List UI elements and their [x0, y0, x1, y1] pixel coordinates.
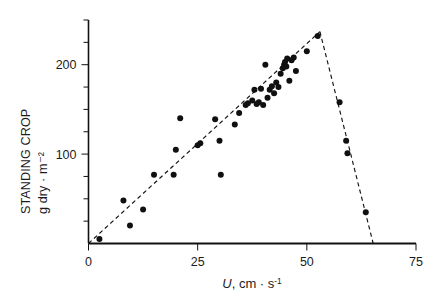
data-point: [293, 68, 299, 74]
data-point: [304, 48, 310, 54]
data-point: [127, 223, 133, 229]
data-point: [262, 62, 268, 68]
data-point: [232, 122, 238, 128]
x-tick-label-0: 0: [85, 255, 92, 269]
data-point: [197, 140, 203, 146]
data-point: [251, 87, 257, 93]
x-tick-label-75: 75: [409, 255, 423, 269]
data-point: [217, 138, 223, 144]
data-point: [291, 55, 297, 61]
data-point: [278, 71, 284, 77]
data-point: [120, 198, 126, 204]
x-axis-title: U, cm · s-1: [222, 276, 282, 291]
data-point: [363, 209, 369, 215]
data-point: [260, 102, 266, 108]
data-point: [177, 115, 183, 121]
y-axis-title-line1: STANDING CROP: [19, 109, 33, 214]
data-point: [344, 150, 350, 156]
data-point: [171, 172, 177, 178]
y-axis-title: STANDING CROP g dry · m⁻²: [2, 28, 66, 218]
data-point: [218, 172, 224, 178]
data-point: [271, 90, 277, 96]
y-axis-ticks: [82, 20, 89, 221]
data-point: [265, 95, 271, 101]
data-point: [236, 110, 242, 116]
data-point: [315, 33, 321, 39]
data-point: [96, 236, 102, 242]
data-point: [343, 138, 349, 144]
y-axis-title-line2: g dry · m⁻²: [35, 152, 50, 214]
data-point: [151, 172, 157, 178]
x-tick-label-50: 50: [300, 255, 314, 269]
data-point: [286, 78, 292, 84]
x-tick-label-25: 25: [191, 255, 205, 269]
data-point: [258, 86, 264, 92]
data-point: [283, 63, 289, 69]
trend-lines: [89, 32, 374, 244]
x-axis-tick-labels: 0255075: [85, 255, 423, 269]
data-point: [212, 116, 218, 122]
data-point: [275, 84, 281, 90]
data-point: [337, 99, 343, 105]
data-point: [173, 147, 179, 153]
scatter-plot-figure: 100200 0255075 U, cm · s-1 STANDING CROP…: [0, 0, 437, 301]
data-point: [140, 207, 146, 213]
